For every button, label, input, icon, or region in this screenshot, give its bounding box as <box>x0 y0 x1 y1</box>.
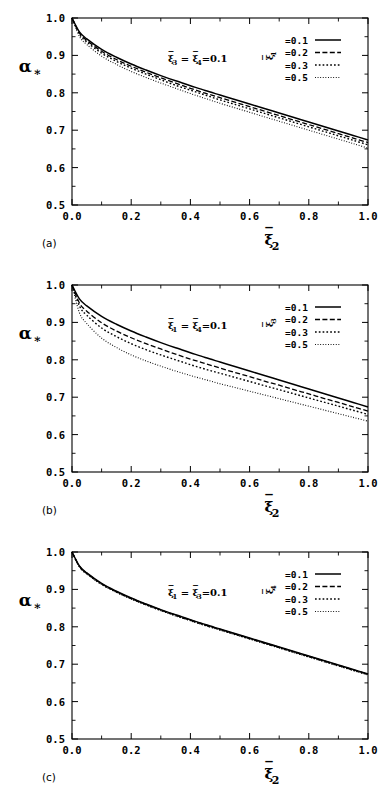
y-tick-label: 0.7 <box>46 391 65 403</box>
data-curve <box>72 285 368 414</box>
x-axis-title: ξ‾2 <box>264 758 279 787</box>
legend-entry-label: =0.5 <box>285 606 308 617</box>
y-tick-label: 0.8 <box>46 354 65 366</box>
legend-entry-label: =0.3 <box>285 60 308 71</box>
x-tick-label: 0.6 <box>240 210 259 222</box>
x-tick-label: 0.2 <box>122 210 141 222</box>
x-tick-label: 0.8 <box>299 210 318 222</box>
x-axis-title: ξ‾2 <box>264 224 279 253</box>
y-axis-title: α∗ <box>19 590 41 613</box>
y-tick-label: 0.9 <box>46 49 65 61</box>
y-tick-label: 0.6 <box>46 696 65 708</box>
legend-entry-label: =0.2 <box>285 47 308 58</box>
x-tick-label: 0.8 <box>299 477 318 489</box>
panel-tag: (b) <box>42 504 57 516</box>
data-curve <box>72 552 368 674</box>
panel-tag: (a) <box>42 237 57 249</box>
x-tick-label: 0.0 <box>63 744 82 756</box>
y-tick-label: 0.8 <box>46 621 65 633</box>
x-tick-label: 0.6 <box>240 477 259 489</box>
y-tick-label: 0.5 <box>46 199 65 211</box>
x-axis: 0.00.20.40.60.81.0 <box>63 285 378 489</box>
y-axis: 0.50.60.70.80.91.0 <box>46 12 368 211</box>
legend: ξ‾1=0.1=0.2=0.3=0.5 <box>260 35 342 84</box>
x-tick-label: 1.0 <box>359 477 378 489</box>
x-tick-label: 0.8 <box>299 744 318 756</box>
panel-tag: (c) <box>42 771 56 783</box>
legend-entry-label: =0.5 <box>285 339 308 350</box>
legend-entry-label: =0.1 <box>285 35 308 46</box>
legend-entry-label: =0.2 <box>285 581 308 592</box>
legend-variable-label: ξ‾3 <box>260 318 279 327</box>
y-tick-label: 0.7 <box>46 124 65 136</box>
data-curve <box>72 285 368 421</box>
plot-frame <box>72 18 368 205</box>
y-axis: 0.50.60.70.80.91.0 <box>46 546 368 745</box>
figure-three-panel-alpha-vs-xi2: 0.00.20.40.60.81.00.50.60.70.80.91.0ξ‾3 … <box>0 0 383 801</box>
plot-frame <box>72 552 368 739</box>
data-curve <box>72 285 368 411</box>
data-curve <box>72 552 368 675</box>
x-axis-title: ξ‾2 <box>264 491 279 520</box>
x-tick-label: 0.4 <box>181 744 200 756</box>
plot-b: 0.00.20.40.60.81.00.50.60.70.80.91.0ξ‾1 … <box>0 267 383 534</box>
data-curve <box>72 18 368 143</box>
legend-entry-label: =0.1 <box>285 302 308 313</box>
y-axis: 0.50.60.70.80.91.0 <box>46 279 368 478</box>
panel-a: 0.00.20.40.60.81.00.50.60.70.80.91.0ξ‾3 … <box>0 0 383 267</box>
legend-entry-label: =0.5 <box>285 72 308 83</box>
panel-annotation: ξ‾1 = ξ‾3=0.1 <box>168 583 227 602</box>
plot-c: 0.00.20.40.60.81.00.50.60.70.80.91.0ξ‾1 … <box>0 534 383 801</box>
legend-entry-label: =0.2 <box>285 314 308 325</box>
y-tick-label: 0.7 <box>46 658 65 670</box>
legend-entry-label: =0.1 <box>285 569 308 580</box>
x-tick-label: 0.4 <box>181 477 200 489</box>
x-tick-label: 0.2 <box>122 744 141 756</box>
legend-variable-label: ξ‾1 <box>260 51 279 60</box>
plot-frame <box>72 285 368 472</box>
legend-entry-label: =0.3 <box>285 594 308 605</box>
x-tick-label: 1.0 <box>359 744 378 756</box>
y-tick-label: 1.0 <box>46 279 65 291</box>
y-tick-label: 0.9 <box>46 583 65 595</box>
x-tick-label: 1.0 <box>359 210 378 222</box>
x-tick-label: 0.0 <box>63 477 82 489</box>
x-tick-label: 0.6 <box>240 744 259 756</box>
y-tick-label: 0.5 <box>46 466 65 478</box>
panel-annotation: ξ‾3 = ξ‾4=0.1 <box>168 49 227 68</box>
data-curve <box>72 18 368 148</box>
x-tick-label: 0.0 <box>63 210 82 222</box>
legend-entry-label: =0.3 <box>285 327 308 338</box>
x-tick-label: 0.2 <box>122 477 141 489</box>
x-axis: 0.00.20.40.60.81.0 <box>63 18 378 222</box>
legend-variable-label: ξ‾4 <box>260 585 279 594</box>
y-axis-title: α∗ <box>19 56 41 79</box>
y-tick-label: 0.9 <box>46 316 65 328</box>
y-tick-label: 0.6 <box>46 162 65 174</box>
y-tick-label: 0.6 <box>46 429 65 441</box>
legend: ξ‾4=0.1=0.2=0.3=0.5 <box>260 569 342 618</box>
x-axis: 0.00.20.40.60.81.0 <box>63 552 378 756</box>
panel-c: 0.00.20.40.60.81.00.50.60.70.80.91.0ξ‾1 … <box>0 534 383 801</box>
data-curve <box>72 552 368 674</box>
data-curve <box>72 552 368 675</box>
y-tick-label: 0.8 <box>46 87 65 99</box>
y-tick-label: 1.0 <box>46 12 65 24</box>
legend: ξ‾3=0.1=0.2=0.3=0.5 <box>260 302 342 351</box>
y-tick-label: 1.0 <box>46 546 65 558</box>
panel-annotation: ξ‾1 = ξ‾4=0.1 <box>168 316 227 335</box>
y-axis-title: α∗ <box>19 323 41 346</box>
y-tick-label: 0.5 <box>46 733 65 745</box>
data-curve <box>72 18 368 140</box>
x-tick-label: 0.4 <box>181 210 200 222</box>
plot-a: 0.00.20.40.60.81.00.50.60.70.80.91.0ξ‾3 … <box>0 0 383 267</box>
data-curve <box>72 285 368 407</box>
panel-b: 0.00.20.40.60.81.00.50.60.70.80.91.0ξ‾1 … <box>0 267 383 534</box>
